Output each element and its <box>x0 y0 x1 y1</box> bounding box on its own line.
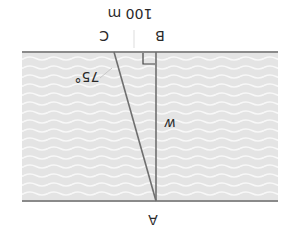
label-point-b: B <box>155 28 165 44</box>
label-width-w: w <box>164 116 176 132</box>
label-angle-c: 75° <box>75 69 100 85</box>
river-triangle-diagram: 100 m C B 75° w A <box>0 0 293 250</box>
label-point-c: C <box>99 28 109 44</box>
label-distance-bc: 100 m <box>108 6 153 22</box>
label-point-a: A <box>148 212 158 228</box>
